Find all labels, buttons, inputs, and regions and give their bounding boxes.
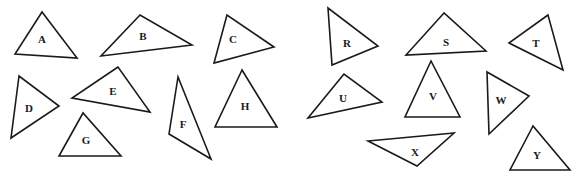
triangle-label: Y (533, 149, 541, 161)
triangle-t: T (509, 15, 563, 70)
triangle-w: W (487, 72, 529, 134)
triangle-label: T (532, 37, 540, 49)
triangle-b: B (101, 15, 192, 56)
triangles-diagram: ABCDEFGHRSTUVWXY (0, 0, 585, 180)
triangle-d: D (11, 76, 59, 138)
triangle-c: C (214, 15, 274, 63)
triangle-label: A (38, 33, 46, 45)
triangle-shape (15, 12, 77, 58)
triangle-s: S (406, 13, 486, 55)
triangle-label: D (25, 102, 33, 114)
triangle-label: S (443, 36, 449, 48)
triangle-label: U (339, 92, 347, 104)
triangle-label: X (411, 146, 419, 158)
triangle-e: E (72, 67, 150, 112)
triangle-shape (169, 77, 211, 159)
triangle-shape (406, 13, 486, 55)
triangle-shape (11, 76, 59, 138)
triangle-label: B (139, 30, 147, 42)
triangle-label: W (496, 94, 507, 106)
triangle-label: R (343, 37, 352, 49)
triangle-shape (215, 70, 277, 127)
triangle-shape (328, 8, 378, 65)
triangle-v: V (405, 61, 460, 117)
triangle-h: H (215, 70, 277, 127)
triangle-a: A (15, 12, 77, 58)
triangle-u: U (308, 74, 382, 118)
triangle-label: V (429, 90, 437, 102)
triangle-x: X (368, 133, 454, 166)
triangle-label: C (229, 33, 237, 45)
triangle-label: G (82, 134, 91, 146)
triangle-y: Y (510, 126, 570, 170)
triangle-r: R (328, 8, 378, 65)
triangle-label: H (241, 100, 250, 112)
triangle-shape (487, 72, 529, 134)
triangle-shape (214, 15, 274, 63)
triangle-group: ABCDEFGHRSTUVWXY (11, 8, 570, 170)
triangle-label: F (180, 118, 187, 130)
triangle-f: F (169, 77, 211, 159)
triangle-label: E (109, 85, 116, 97)
triangle-g: G (59, 113, 121, 156)
